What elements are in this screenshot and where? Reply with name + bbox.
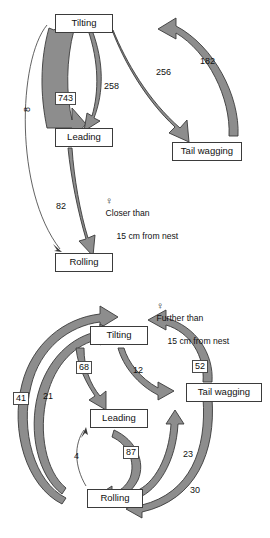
flow-value-182: 182 (200, 57, 215, 66)
legend-closer-line2: 15 cm from nest (106, 231, 179, 241)
venus-icon: ♀ (106, 195, 114, 206)
node-tilting-bottom[interactable]: Tilting (90, 326, 148, 345)
flow-value-87: 87 (123, 446, 139, 459)
flow-value-256: 256 (156, 68, 171, 77)
node-tail-wagging-bottom[interactable]: Tail wagging (186, 383, 262, 402)
flow-value-52: 52 (192, 360, 208, 373)
venus-icon-2: ♀ (157, 300, 165, 311)
flow-value-743: 743 (55, 92, 76, 105)
legend-further-line1: Further than (157, 313, 204, 323)
flow-value-8: 8 (22, 107, 32, 112)
flow-tilting-leading-743 (42, 16, 86, 140)
flow-value-82: 82 (56, 202, 66, 211)
flow-value-23: 23 (183, 450, 193, 459)
flow-value-258: 258 (104, 82, 119, 91)
node-tail-wagging-top[interactable]: Tail wagging (172, 142, 242, 161)
node-leading-bottom[interactable]: Leading (90, 409, 148, 428)
legend-closer-line1: Closer than (106, 208, 150, 218)
flow-tilting-leading-68 (76, 348, 106, 410)
node-leading-top[interactable]: Leading (55, 128, 113, 147)
flow-tilting-tailwagging-256 (112, 30, 189, 142)
legend-further-line2: 15 cm from nest (157, 336, 230, 346)
flow-leading-rolling-82 (68, 148, 95, 256)
node-rolling-top[interactable]: Rolling (55, 253, 113, 272)
flow-value-30: 30 (190, 486, 200, 495)
flow-leading-tilting-258 (84, 30, 101, 131)
legend-further: ♀ Further than 15 cm from nest (147, 287, 229, 360)
figure-canvas: Tilting Leading Rolling Tail wagging 743… (0, 0, 270, 538)
node-rolling-bottom[interactable]: Rolling (87, 489, 143, 508)
flow-value-4: 4 (74, 452, 79, 461)
flow-value-12: 12 (133, 366, 143, 375)
node-tilting-top[interactable]: Tilting (55, 14, 113, 33)
flow-value-21: 21 (43, 392, 53, 401)
flow-value-41: 41 (13, 392, 29, 405)
flow-value-68: 68 (76, 361, 92, 374)
legend-closer: ♀ Closer than 15 cm from nest (96, 182, 178, 255)
